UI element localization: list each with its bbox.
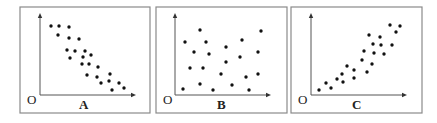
data-point — [73, 49, 76, 52]
data-point — [382, 52, 385, 55]
x-axis-arrow-icon — [131, 93, 136, 97]
data-point — [378, 35, 381, 38]
panel-label-c: C — [352, 97, 361, 112]
data-point — [67, 36, 70, 39]
data-point — [201, 66, 204, 69]
data-point — [224, 45, 227, 48]
data-point — [394, 30, 397, 33]
data-point — [256, 50, 259, 53]
scatter-panel-c: OC — [291, 7, 422, 113]
data-point — [240, 38, 243, 41]
data-point — [360, 58, 363, 61]
data-point — [388, 23, 391, 26]
panel-label-a: A — [79, 97, 89, 112]
data-point — [117, 81, 120, 84]
data-point — [207, 52, 210, 55]
data-point — [362, 49, 365, 52]
data-point — [198, 28, 201, 31]
data-point — [183, 40, 186, 43]
data-point — [122, 86, 125, 89]
x-axis-arrow-icon — [266, 93, 271, 97]
data-point — [85, 73, 88, 76]
data-point — [352, 68, 355, 71]
data-point — [81, 55, 84, 58]
data-point — [96, 65, 99, 68]
data-point — [67, 25, 70, 28]
data-point — [95, 75, 98, 78]
data-point — [57, 24, 60, 27]
origin-label: O — [163, 92, 172, 107]
data-point — [352, 76, 355, 79]
data-point — [340, 72, 343, 75]
data-point — [68, 56, 71, 59]
data-point — [370, 62, 373, 65]
scatter-panel-a: OA — [20, 7, 150, 113]
data-point — [398, 24, 401, 27]
data-point — [365, 70, 368, 73]
origin-label: O — [298, 92, 307, 107]
scatter-panel-b: OB — [156, 7, 287, 113]
data-point — [80, 62, 83, 65]
data-points — [49, 24, 125, 91]
data-point — [379, 43, 382, 46]
data-point — [238, 55, 241, 58]
data-point — [341, 80, 344, 83]
scatter-comparison-figure: OAOBOC — [0, 0, 437, 123]
data-point — [87, 62, 90, 65]
data-point — [192, 50, 195, 53]
data-point — [204, 40, 207, 43]
data-point — [83, 49, 86, 52]
data-point — [107, 79, 110, 82]
y-axis-arrow-icon — [173, 13, 177, 18]
data-point — [244, 75, 247, 78]
data-point — [371, 42, 374, 45]
data-point — [335, 77, 338, 80]
data-point — [198, 82, 201, 85]
data-point — [256, 72, 259, 75]
data-point — [49, 24, 52, 27]
data-point — [65, 48, 68, 51]
data-point — [181, 87, 184, 90]
data-point — [390, 43, 393, 46]
data-point — [108, 72, 111, 75]
data-point — [89, 53, 92, 56]
data-points — [317, 23, 401, 91]
data-point — [345, 64, 348, 67]
data-point — [317, 88, 320, 91]
data-point — [372, 51, 375, 54]
y-axis-arrow-icon — [309, 13, 313, 18]
data-point — [110, 88, 113, 91]
y-axis-arrow-icon — [38, 13, 42, 18]
data-point — [77, 37, 80, 40]
data-point — [367, 33, 370, 36]
data-point — [99, 81, 102, 84]
data-point — [247, 88, 250, 91]
data-point — [56, 33, 59, 36]
x-axis-arrow-icon — [402, 93, 407, 97]
data-point — [230, 83, 233, 86]
data-point — [219, 72, 222, 75]
data-point — [224, 60, 227, 63]
data-point — [259, 29, 262, 32]
data-point — [188, 66, 191, 69]
data-point — [211, 88, 214, 91]
origin-label: O — [27, 92, 36, 107]
data-point — [324, 81, 327, 84]
data-points — [181, 28, 262, 91]
panel-label-b: B — [217, 97, 226, 112]
data-point — [329, 86, 332, 89]
